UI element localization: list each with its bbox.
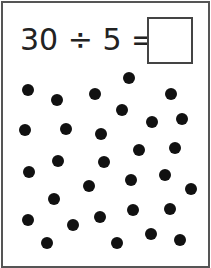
counting-dot bbox=[164, 203, 176, 215]
counting-dot bbox=[174, 234, 186, 246]
division-equation: 30 ÷ 5 = bbox=[20, 20, 156, 60]
counting-dot bbox=[51, 94, 63, 106]
counting-dot bbox=[185, 183, 197, 195]
counting-dot bbox=[23, 166, 35, 178]
counting-dot bbox=[98, 156, 110, 168]
counting-dot bbox=[165, 88, 177, 100]
counting-dot bbox=[145, 228, 157, 240]
counting-dot bbox=[159, 169, 171, 181]
counting-dot bbox=[133, 144, 145, 156]
counting-dot bbox=[125, 174, 137, 186]
counting-dot bbox=[89, 88, 101, 100]
counting-dot bbox=[22, 214, 34, 226]
counting-dot bbox=[123, 72, 135, 84]
counting-dot bbox=[176, 113, 188, 125]
counting-dot bbox=[95, 128, 107, 140]
counting-dot bbox=[146, 116, 158, 128]
counting-dot bbox=[48, 193, 60, 205]
answer-box[interactable] bbox=[147, 17, 193, 64]
counting-dot bbox=[116, 104, 128, 116]
counting-dot bbox=[111, 237, 123, 249]
counting-dot bbox=[127, 204, 139, 216]
counting-dot bbox=[60, 123, 72, 135]
counting-dot bbox=[41, 237, 53, 249]
counting-dot bbox=[22, 84, 34, 96]
counting-dot bbox=[83, 180, 95, 192]
counting-dot bbox=[169, 142, 181, 154]
counting-dot bbox=[94, 211, 106, 223]
counting-dot bbox=[52, 155, 64, 167]
counting-dot bbox=[19, 124, 31, 136]
counting-dot bbox=[67, 219, 79, 231]
